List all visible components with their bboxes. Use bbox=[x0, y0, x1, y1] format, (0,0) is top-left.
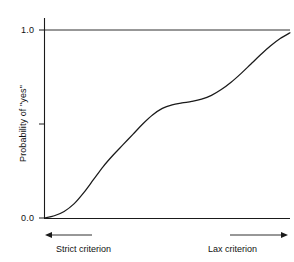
y-axis-title: Probability of "yes" bbox=[19, 59, 28, 189]
psychometric-curve bbox=[45, 33, 291, 218]
y-tick-label-top: 1.0 bbox=[21, 26, 34, 35]
chart-canvas bbox=[0, 0, 294, 262]
y-tick-label-bottom: 0.0 bbox=[21, 214, 34, 223]
strict-criterion-label: Strict criterion bbox=[56, 244, 111, 254]
lax-criterion-label: Lax criterion bbox=[208, 244, 257, 254]
lax-criterion-arrow bbox=[230, 232, 288, 238]
strict-criterion-arrow bbox=[45, 232, 92, 238]
